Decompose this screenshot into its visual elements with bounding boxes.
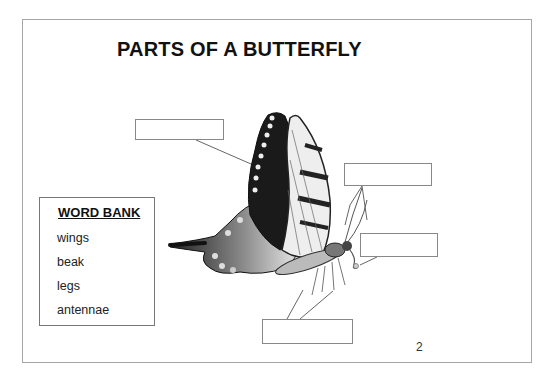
legs-label-box[interactable] (262, 319, 353, 344)
beak-label-box[interactable] (360, 233, 438, 257)
antennae-label-box[interactable] (344, 163, 432, 186)
wings-label-box[interactable] (135, 119, 224, 140)
